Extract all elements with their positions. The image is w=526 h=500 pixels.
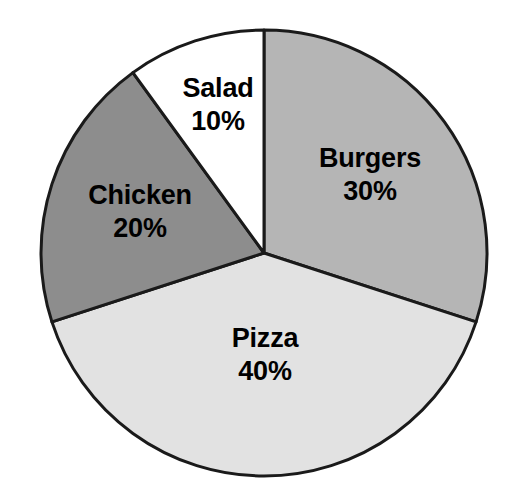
slice-label-name: Salad (182, 72, 253, 105)
slice-label-value: 40% (232, 355, 299, 388)
pie-slice-label-chicken: Chicken 20% (88, 179, 192, 245)
pie-slice-label-salad: Salad 10% (182, 72, 253, 138)
slice-label-value: 20% (88, 212, 192, 245)
slice-label-name: Chicken (88, 179, 192, 212)
slice-label-value: 30% (319, 175, 421, 208)
slice-label-value: 10% (182, 105, 253, 138)
slice-label-name: Pizza (232, 322, 299, 355)
pie-slice-group (41, 30, 487, 476)
pie-chart-svg (0, 0, 526, 500)
pie-chart: Burgers 30% Pizza 40% Chicken 20% Salad … (0, 0, 526, 500)
pie-slice-label-pizza: Pizza 40% (232, 322, 299, 388)
slice-label-name: Burgers (319, 142, 421, 175)
pie-slice-label-burgers: Burgers 30% (319, 142, 421, 208)
